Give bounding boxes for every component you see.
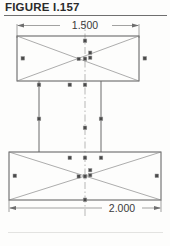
node-upper-beam-center-upper-right — [89, 51, 92, 54]
node-marker-group — [13, 39, 159, 202]
node-upper-beam-right-mid — [143, 57, 147, 61]
node-lower-beam-center-right — [89, 174, 92, 177]
scan-bottom-edge — [8, 232, 163, 233]
node-upper-beam-left-mid — [21, 57, 25, 61]
top-dimension-label: 1.500 — [72, 19, 98, 31]
node-lower-beam-right-mid — [155, 174, 159, 178]
node-upper-beam-center — [83, 57, 87, 61]
node-upper-beam-center-right — [89, 56, 92, 59]
node-lower-beam-center-left — [77, 175, 80, 178]
node-upper-beam-center-left — [77, 57, 80, 60]
top-dimension-group: 1.500 — [17, 19, 139, 38]
figure-caption-text: FIGURE I.157 — [5, 1, 80, 13]
node-lower-beam-left-mid — [13, 174, 17, 178]
figure-caption-block: FIGURE I.157 — [0, 0, 170, 17]
node-lower-beam-top-center — [83, 156, 87, 160]
bottom-dimension-arrow-left — [9, 206, 16, 210]
node-lower-beam-top-right — [99, 156, 103, 160]
top-dimension-arrow-left — [17, 24, 24, 28]
node-upper-beam-top-center — [83, 39, 87, 43]
structural-frame-drawing: 1.500 2.000 — [0, 16, 170, 246]
top-dimension-arrow-right — [132, 24, 139, 28]
node-lower-beam-center — [83, 175, 87, 179]
node-lower-beam-top-mid — [68, 156, 72, 160]
node-upper-beam-bottom-mid — [68, 83, 72, 87]
node-lower-beam-center-upper-right — [89, 169, 92, 172]
bottom-dimension-label: 2.000 — [109, 202, 135, 214]
node-centerline-mid — [83, 126, 87, 130]
node-left-column-top — [37, 83, 41, 87]
node-right-column-mid — [99, 117, 103, 121]
node-lower-beam-bottom-center — [83, 198, 87, 202]
bottom-dimension-arrow-right — [154, 206, 161, 210]
node-left-column-mid — [37, 117, 41, 121]
figure-page: FIGURE I.157 1.500 — [0, 0, 170, 246]
node-upper-beam-bottom-center — [83, 83, 87, 87]
